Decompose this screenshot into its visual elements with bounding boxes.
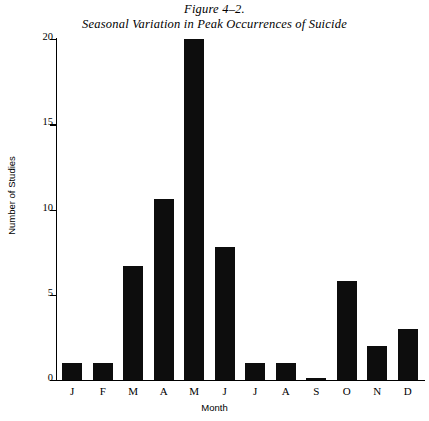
y-axis-title: Number of Studies: [6, 141, 17, 251]
bar-june: [215, 247, 235, 380]
x-axis-tick-label: A: [160, 385, 168, 397]
plot-area: 05101520: [57, 39, 423, 380]
bar-november: [367, 346, 387, 380]
bar-july: [245, 363, 265, 380]
bar-may: [184, 39, 204, 380]
y-axis-tick-label: 10: [43, 202, 54, 213]
figure-title-block: Figure 4–2. Seasonal Variation in Peak O…: [0, 2, 429, 32]
bar-october: [337, 281, 357, 380]
bar-december: [398, 329, 418, 380]
x-axis-tick-label: J: [223, 385, 227, 397]
x-axis-tick-label: D: [404, 385, 412, 397]
x-axis-tick-label: A: [282, 385, 290, 397]
figure-number-label: Figure 4–2.: [0, 2, 429, 17]
figure-title-label: Seasonal Variation in Peak Occurrences o…: [0, 17, 429, 32]
y-axis-tick-label: 5: [48, 287, 53, 298]
x-axis-tick-label: J: [70, 385, 74, 397]
x-axis-tick-label: J: [253, 385, 257, 397]
x-axis-line: [56, 380, 425, 381]
x-axis-tick-label: M: [189, 385, 199, 397]
y-axis-tick-label: 15: [43, 116, 54, 127]
bar-march: [123, 266, 143, 380]
bar-august: [276, 363, 296, 380]
x-axis-tick-label: M: [128, 385, 138, 397]
bar-april: [154, 199, 174, 380]
x-axis-tick-label: N: [373, 385, 381, 397]
bar-september: [306, 378, 326, 380]
y-axis-tick-label: 0: [48, 372, 53, 383]
x-axis-tick-label: S: [313, 385, 319, 397]
bar-february: [93, 363, 113, 380]
bar-january: [62, 363, 82, 380]
x-axis-tick-label: O: [343, 385, 351, 397]
y-axis-tick-label: 20: [43, 31, 54, 42]
x-axis-tick-label: F: [100, 385, 106, 397]
x-axis-title: Month: [0, 402, 429, 413]
